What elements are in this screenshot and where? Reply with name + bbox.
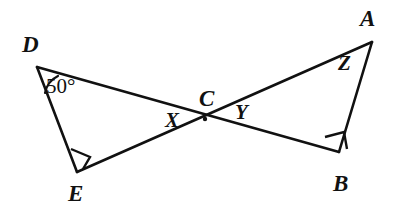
vertex-label-b: B	[333, 172, 348, 195]
angle-label-z: Z	[338, 53, 351, 74]
angle-label-y: Y	[235, 102, 248, 123]
angle-measure-label-d: 50°	[46, 76, 75, 97]
vertex-label-d: D	[22, 33, 39, 56]
vertex-label-c: C	[199, 87, 214, 110]
vertex-label-e: E	[68, 182, 83, 205]
vertex-label-a: A	[360, 7, 375, 30]
segment-e-a	[77, 42, 372, 172]
geometry-figure: D E A B C X Y Z 50°	[0, 0, 403, 219]
intersection-point-c	[203, 117, 207, 121]
segment-d-b	[37, 67, 339, 152]
angle-label-x: X	[165, 110, 179, 131]
